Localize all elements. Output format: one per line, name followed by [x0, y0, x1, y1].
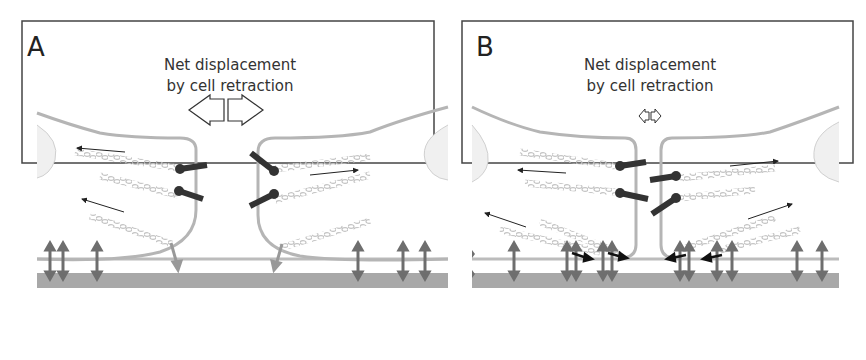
- panel-a-caption-line2: by cell retraction: [166, 77, 293, 95]
- cadherin-icon: [174, 164, 207, 199]
- panel-b-caption-line1: Net displacement: [584, 56, 716, 74]
- force-arrow-icon: [310, 170, 358, 175]
- panel-b-caption-line2: by cell retraction: [586, 77, 713, 95]
- panel-b-label: B: [476, 32, 494, 62]
- actin-fiber-icon: [680, 168, 800, 250]
- integrin-icon: [472, 250, 475, 278]
- cadherin-icon: [615, 161, 681, 214]
- panel-a-label: A: [27, 32, 45, 62]
- integrin-icon: [171, 243, 282, 270]
- force-arrow-icon: [82, 199, 124, 212]
- substrate: [472, 273, 839, 288]
- figure-canvas: A Net displacement by cell retraction: [0, 0, 866, 360]
- force-arrow-icon: [518, 170, 566, 173]
- panel-b: B Net displacement by cell retraction: [462, 21, 853, 288]
- panel-a-caption-line1: Net displacement: [164, 56, 296, 74]
- actin-fiber-icon: [500, 152, 620, 253]
- force-arrow-icon: [485, 213, 526, 227]
- actin-fiber-icon: [75, 152, 178, 244]
- panel-a: A Net displacement by cell retraction: [22, 21, 448, 288]
